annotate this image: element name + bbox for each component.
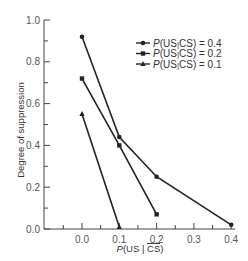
chart-container: 0.00.20.40.60.81.00.00.10.20.30.4 P(US|C… bbox=[0, 0, 248, 261]
legend-item: P(US|CS) = 0.1 bbox=[136, 59, 222, 70]
circle-marker-icon bbox=[229, 223, 234, 228]
series-polyline bbox=[82, 114, 119, 227]
circle-marker-icon bbox=[80, 34, 85, 39]
y-tick-label: 0.0 bbox=[26, 224, 40, 235]
legend-circle-marker-icon bbox=[141, 41, 146, 46]
legend-item: P(US|CS) = 0.4 bbox=[136, 38, 222, 49]
triangle-marker-icon bbox=[117, 224, 122, 229]
legend-item: P(US|CS) = 0.2 bbox=[136, 48, 222, 59]
y-axis-title: Degree of suppression bbox=[15, 82, 26, 178]
series-line-0-2 bbox=[80, 76, 159, 216]
square-marker-icon bbox=[154, 212, 158, 216]
y-tick-label: 1.0 bbox=[26, 15, 40, 26]
y-tick-label: 0.8 bbox=[26, 56, 40, 67]
legend-label: P(US|CS) = 0.4 bbox=[153, 38, 222, 49]
y-tick-label: 0.2 bbox=[26, 182, 40, 193]
y-tick-label: 0.6 bbox=[26, 98, 40, 109]
legend: P(US|CS) = 0.4P(US|CS) = 0.2P(US|CS) = 0… bbox=[136, 38, 222, 70]
x-axis-title-us: (US | bbox=[123, 243, 147, 254]
x-axis-title: P(US | CS) bbox=[117, 243, 164, 254]
square-marker-icon bbox=[117, 143, 121, 147]
circle-marker-icon bbox=[154, 174, 159, 179]
circle-marker-icon bbox=[117, 135, 122, 140]
triangle-marker-icon bbox=[79, 111, 84, 116]
x-tick-label: 0.3 bbox=[187, 234, 201, 245]
x-tick-label: 0.4 bbox=[224, 234, 238, 245]
square-marker-icon bbox=[80, 76, 84, 80]
chart-svg: 0.00.20.40.60.81.00.00.10.20.30.4 P(US|C… bbox=[0, 0, 248, 261]
x-axis-title-close: ) bbox=[160, 243, 163, 254]
legend-label: P(US|CS) = 0.1 bbox=[153, 59, 222, 70]
x-tick-label: 0.0 bbox=[75, 234, 89, 245]
legend-square-marker-icon bbox=[141, 51, 145, 55]
x-axis-title-cs-bar: CS bbox=[147, 243, 160, 254]
legend-label: P(US|CS) = 0.2 bbox=[153, 48, 222, 59]
y-tick-label: 0.4 bbox=[26, 140, 40, 151]
